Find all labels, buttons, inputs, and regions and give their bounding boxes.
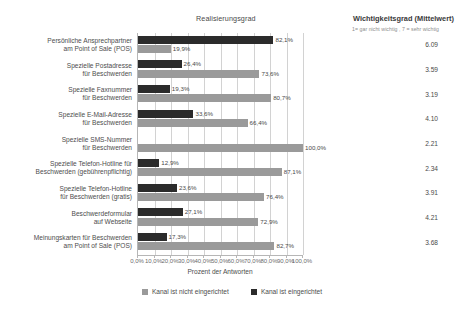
bar-kanal-eingerichtet [138,110,193,118]
x-axis-tick-label: 20,0% [161,258,178,264]
bar-value-label: 80,7% [273,94,291,102]
bar-group: 33,6%66,4% [138,110,303,131]
chart-title-wichtigkeitsgrad: Wichtigkeitsgrad (Mittelwert) [353,14,454,23]
wichtigkeitsgrad-value: 6.09 [404,41,438,49]
bar-value-label: 82,7% [276,242,294,250]
wichtigkeitsgrad-value: 3.59 [404,66,438,74]
bar-value-label: 23,6% [179,184,197,192]
bar-value-label: 73,6% [261,70,279,78]
wichtigkeitsgrad-value: 2.34 [404,165,438,173]
x-axis-title: Prozent der Antworten [137,268,303,275]
bar-kanal-eingerichtet [138,60,182,68]
bar-value-label: 66,4% [250,119,268,127]
plot-area: 82,1%19,9%26,4%73,6%19,3%80,7%33,6%66,4%… [137,33,303,255]
bar-group: 19,3%80,7% [138,85,303,106]
bar-group: 12,9%87,1% [138,159,303,180]
chart-title-realisierungsgrad: Realisierungsgrad [196,14,256,23]
category-label: Persönliche Ansprechpartneram Point of S… [0,37,132,53]
x-axis-tick-label: 50,0% [211,258,228,264]
bar-kanal-nicht-eingerichtet [138,70,259,78]
bar-kanal-nicht-eingerichtet [138,119,248,127]
bar-value-label: 19,3% [172,85,190,93]
wichtigkeitsgrad-value: 3.68 [404,239,438,247]
bar-kanal-eingerichtet [138,208,183,216]
bar-group: 100,0% [138,134,303,155]
x-axis-tick-label: 100,0% [292,258,312,264]
wichtigkeitsgrad-scale-note: 1= gar nicht wichtig , 7 = sehr wichtig [352,26,439,32]
category-label: Spezielle Faxnummerfür Beschwerden [0,86,132,102]
bar-value-label: 19,9% [173,45,191,53]
x-axis-tick-label: 70,0% [244,258,261,264]
bar-value-label: 76,4% [266,193,284,201]
bar-group: 26,4%73,6% [138,60,303,81]
chart-legend: Kanal ist nicht eingerichtetKanal ist ei… [0,288,464,295]
wichtigkeitsgrad-value: 4.10 [404,115,438,123]
bar-value-label: 72,9% [260,218,278,226]
x-axis-tick-label: 10,0% [145,258,162,264]
bar-kanal-eingerichtet [138,233,167,241]
wichtigkeitsgrad-value-column: 6.093.593.194.102.212.343.914.213.68 [404,33,460,255]
wichtigkeitsgrad-value: 3.19 [404,91,438,99]
category-label: Spezielle Telefon-Hotlinefür Beschwerden… [0,185,132,201]
x-axis-tick-label: 60,0% [227,258,244,264]
bar-kanal-nicht-eingerichtet [138,45,171,53]
bar-kanal-nicht-eingerichtet [138,168,282,176]
category-label: Beschwerdeformularauf Webseite [0,210,132,226]
bar-value-label: 27,1% [185,208,203,216]
legend-swatch-icon [142,289,148,295]
gridline [303,33,304,255]
wichtigkeitsgrad-value: 3.91 [404,189,438,197]
category-label: Spezielle E-Mail-Adressefür Beschwerden [0,111,132,127]
bar-group: 17,3%82,7% [138,233,303,254]
legend-item[interactable]: Kanal ist eingerichtet [251,288,322,295]
legend-label: Kanal ist eingerichtet [261,288,322,295]
bar-kanal-nicht-eingerichtet [138,242,274,250]
legend-label: Kanal ist nicht eingerichtet [152,288,229,295]
bar-kanal-eingerichtet [138,159,159,167]
category-label: Spezielle Telefon-Hotline fürBeschwerden… [0,160,132,176]
x-axis-tick-label: 30,0% [178,258,195,264]
wichtigkeitsgrad-value: 4.21 [404,214,438,222]
bar-group: 23,6%76,4% [138,184,303,205]
bar-value-label: 82,1% [275,36,293,44]
x-axis-tick-label: 80,0% [260,258,277,264]
bar-kanal-eingerichtet [138,36,273,44]
realisierungsgrad-chart: Realisierungsgrad Wichtigkeitsgrad (Mitt… [0,0,464,311]
bar-kanal-nicht-eingerichtet [138,218,258,226]
bar-kanal-eingerichtet [138,85,170,93]
bar-value-label: 26,4% [184,60,202,68]
bar-value-label: 17,3% [169,233,187,241]
bar-group: 82,1%19,9% [138,36,303,57]
bar-value-label: 87,1% [284,168,302,176]
bar-value-label: 100,0% [305,144,326,152]
bar-value-label: 33,6% [195,110,213,118]
bar-kanal-nicht-eingerichtet [138,193,264,201]
bar-kanal-eingerichtet [138,184,177,192]
bar-kanal-nicht-eingerichtet [138,94,271,102]
bar-group: 27,1%72,9% [138,208,303,229]
category-label: Spezielle SMS-Nummerfür Beschwerden [0,136,132,152]
category-label: Spezielle Postadressefür Beschwerden [0,62,132,78]
bar-value-label: 12,9% [161,159,179,167]
legend-item[interactable]: Kanal ist nicht eingerichtet [142,288,229,295]
x-axis-tick-label: 40,0% [194,258,211,264]
legend-swatch-icon [251,289,257,295]
category-label: Meinungskarten für Beschwerdenam Point o… [0,234,132,250]
wichtigkeitsgrad-value: 2.21 [404,140,438,148]
x-axis-tick-label: 0,0% [130,258,144,264]
bar-kanal-nicht-eingerichtet [138,144,303,152]
category-axis-labels: Persönliche Ansprechpartneram Point of S… [0,33,136,255]
